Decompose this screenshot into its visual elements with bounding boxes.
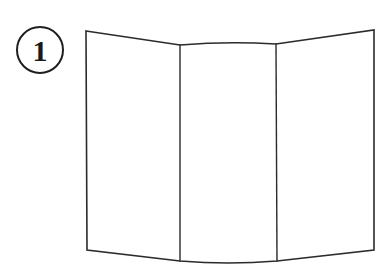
folded-paper-outline bbox=[86, 30, 374, 263]
step-badge-label: 1 bbox=[33, 34, 48, 67]
step-badge: 1 bbox=[17, 27, 63, 73]
figure-illustration: 1 bbox=[0, 0, 388, 268]
figure-canvas: 1 bbox=[0, 0, 388, 268]
